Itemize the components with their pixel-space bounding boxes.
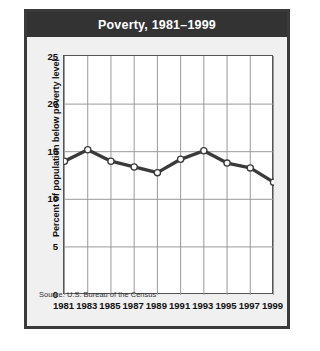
data-point-marker [201, 148, 207, 154]
x-tick-label: 1997 [239, 300, 260, 311]
x-tick-label: 1987 [123, 300, 144, 311]
data-point-marker [224, 160, 230, 166]
x-tick-label: 1999 [262, 300, 283, 311]
data-point-marker [270, 179, 274, 185]
data-point-marker [247, 165, 253, 171]
plot-area [63, 55, 273, 294]
poverty-series-line [65, 150, 274, 182]
chart-title-bar: Poverty, 1981–1999 [27, 12, 287, 37]
data-point-marker [108, 158, 114, 164]
x-tick-label: 1995 [215, 300, 236, 311]
grid-lines [64, 56, 274, 295]
x-tick-label: 1993 [192, 300, 213, 311]
x-tick-label: 1991 [169, 300, 190, 311]
chart-figure: Poverty, 1981–1999 Percent of population… [24, 9, 290, 329]
y-tick-label: 5 [53, 240, 58, 251]
y-tick-label: 10 [47, 193, 58, 204]
plot-wrapper: 0510152025 19811983198519871989199119931… [63, 55, 273, 294]
source-note: Source: U.S. Bureau of the Census [39, 290, 156, 299]
data-point-marker [131, 164, 137, 170]
chart-body: Percent of population below poverty leve… [27, 37, 287, 326]
y-tick-label: 20 [47, 98, 58, 109]
page-title: Poverty, 1981–1999 [98, 18, 216, 32]
line-chart-svg [64, 56, 274, 295]
data-point-marker [154, 170, 160, 176]
data-point-marker [85, 147, 91, 153]
data-point-marker [178, 156, 184, 162]
x-tick-label: 1983 [76, 300, 97, 311]
y-tick-label: 25 [47, 50, 58, 61]
series-polyline [65, 150, 274, 182]
x-tick-label: 1989 [146, 300, 167, 311]
x-tick-label: 1981 [53, 300, 74, 311]
y-tick-label: 15 [47, 145, 58, 156]
x-tick-label: 1985 [99, 300, 120, 311]
data-point-marker [64, 158, 68, 164]
